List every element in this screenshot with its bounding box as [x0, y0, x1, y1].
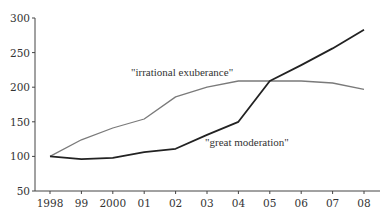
y-tick-label: 200	[10, 81, 30, 93]
y-tick-label: 50	[17, 185, 30, 197]
y-axis: 50100150200250300	[10, 12, 35, 197]
x-tick-label: 03	[200, 197, 213, 209]
x-tick-label: 04	[232, 197, 246, 209]
y-tick-label: 250	[10, 47, 30, 59]
line-chart: 50100150200250300 1998992000010203040506…	[0, 0, 391, 222]
x-tick-label: 1998	[37, 197, 64, 209]
x-tick-label: 07	[326, 197, 339, 209]
x-tick-label: 06	[295, 197, 309, 209]
y-tick-label: 100	[10, 150, 30, 162]
y-tick-label: 150	[10, 116, 30, 128]
x-tick-label: 08	[357, 197, 370, 209]
x-tick-label: 02	[169, 197, 182, 209]
annotation-great-moderation: "great moderation"	[205, 136, 289, 148]
x-tick-label: 01	[138, 197, 151, 209]
x-tick-label: 2000	[99, 197, 126, 209]
x-tick-label: 99	[75, 197, 88, 209]
y-tick-label: 300	[10, 12, 30, 24]
annotation-irrational-exuberance: "irrational exuberance"	[131, 66, 233, 78]
x-tick-label: 05	[263, 197, 276, 209]
x-axis: 19989920000102030405060708	[35, 191, 380, 209]
